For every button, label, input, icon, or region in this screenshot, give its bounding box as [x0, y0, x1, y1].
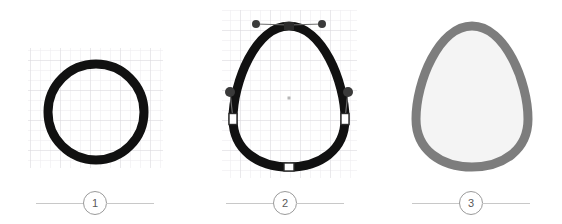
- center-marker-icon: [288, 97, 291, 100]
- step-panel-2: 2: [190, 0, 380, 224]
- step-3-canvas: [380, 0, 562, 182]
- step-badge-1: 1: [83, 191, 107, 215]
- step-badge-3: 3: [459, 191, 483, 215]
- step-1-drawing: [0, 0, 190, 182]
- step-1-caption: 1: [0, 182, 190, 224]
- handle-left-icon[interactable]: [225, 87, 235, 97]
- step-3-drawing: [380, 0, 562, 182]
- step-2-drawing: [190, 0, 380, 182]
- step-2-caption: 2: [190, 182, 380, 224]
- caption-rule-left: [36, 203, 84, 204]
- anchor-left-icon[interactable]: [229, 114, 237, 125]
- finished-egg-path: [416, 26, 528, 167]
- handle-right-icon[interactable]: [343, 87, 353, 97]
- anchor-top-icon[interactable]: [285, 23, 294, 30]
- handle-top-right-icon[interactable]: [318, 20, 326, 28]
- caption-rule-left: [226, 203, 274, 204]
- anchor-right-icon[interactable]: [341, 114, 349, 125]
- step-badge-2: 2: [273, 191, 297, 215]
- anchor-bottom-icon[interactable]: [284, 163, 294, 171]
- caption-rule-right: [106, 203, 154, 204]
- handle-top-left-icon[interactable]: [252, 20, 260, 28]
- caption-rule-right: [296, 203, 344, 204]
- step-panel-1: 1: [0, 0, 190, 224]
- step-panel-3: 3: [380, 0, 562, 224]
- step-1-canvas: [0, 0, 190, 182]
- caption-rule-left: [412, 203, 460, 204]
- caption-rule-right: [482, 203, 530, 204]
- step-3-caption: 3: [380, 182, 562, 224]
- egg-construction-illustration: 1: [0, 0, 562, 224]
- step-2-canvas: [190, 0, 380, 182]
